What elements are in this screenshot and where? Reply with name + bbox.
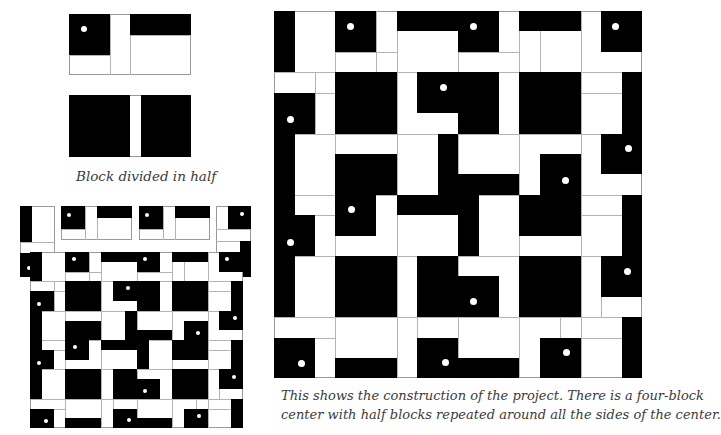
black-patch <box>65 418 101 428</box>
black-patch <box>113 369 137 399</box>
black-patch <box>274 338 315 378</box>
dot-marker <box>563 349 570 356</box>
black-patch <box>540 338 581 378</box>
seam-line <box>20 242 55 243</box>
dot-marker <box>196 331 200 335</box>
black-patch <box>274 256 295 317</box>
seam-line <box>54 281 55 311</box>
seam-line <box>65 272 101 273</box>
black-patch <box>417 256 458 317</box>
black-patch <box>172 340 208 360</box>
dot-marker <box>197 414 201 418</box>
black-patch <box>601 134 642 174</box>
black-patch <box>141 95 191 157</box>
dot-marker <box>143 389 147 393</box>
black-patch <box>137 301 160 311</box>
dot-marker <box>37 302 41 306</box>
black-patch <box>519 72 581 134</box>
black-patch <box>61 206 85 229</box>
black-patch <box>417 338 458 378</box>
seam-line <box>208 252 209 428</box>
black-patch <box>65 340 89 360</box>
black-patch <box>438 134 458 215</box>
black-patch <box>335 195 376 236</box>
black-patch <box>228 206 251 229</box>
black-patch <box>417 72 499 113</box>
black-patch <box>101 340 125 350</box>
black-patch <box>65 321 101 340</box>
black-patch <box>30 291 54 311</box>
construction-caption-line-2: center with half blocks repeated around … <box>281 405 721 424</box>
dot-marker <box>240 212 244 216</box>
black-patch <box>231 399 243 428</box>
black-patch <box>97 206 132 218</box>
black-patch <box>458 11 499 52</box>
dot-marker <box>287 116 294 123</box>
seam-line <box>139 229 163 230</box>
seam-line <box>89 252 90 281</box>
dot-marker <box>67 213 71 217</box>
black-patch <box>184 409 208 428</box>
black-patch <box>458 195 479 256</box>
dot-marker <box>232 375 236 379</box>
dot-marker <box>612 23 619 30</box>
black-patch <box>30 369 42 399</box>
seam-line <box>376 11 377 72</box>
dot-marker <box>287 239 294 246</box>
black-patch <box>458 358 519 378</box>
dot-marker <box>81 26 87 32</box>
black-patch <box>65 252 89 272</box>
black-patch <box>139 206 163 229</box>
black-patch <box>335 11 376 52</box>
dot-marker <box>470 298 477 305</box>
seam-line <box>85 206 86 240</box>
black-patch <box>274 215 315 256</box>
black-patch <box>458 276 499 317</box>
black-patch <box>519 11 581 31</box>
black-patch <box>397 11 458 31</box>
seam-line <box>163 206 164 240</box>
seam-line <box>315 72 316 134</box>
seam-line <box>69 55 110 56</box>
construction-caption-line-1: This shows the construction of the proje… <box>281 386 721 405</box>
seam-line <box>216 229 251 230</box>
dot-marker <box>625 145 632 152</box>
black-patch <box>101 252 137 262</box>
black-patch <box>30 350 54 369</box>
black-patch <box>172 281 208 311</box>
black-patch <box>458 174 519 195</box>
dot-marker <box>225 257 229 261</box>
black-patch <box>519 195 581 236</box>
black-patch <box>20 206 32 242</box>
dot-marker <box>562 177 569 184</box>
black-patch <box>69 95 130 157</box>
dot-marker <box>470 23 477 30</box>
dot-marker <box>143 257 147 261</box>
dot-marker <box>126 286 130 290</box>
black-patch <box>601 256 642 297</box>
dot-marker <box>233 316 237 320</box>
black-patch <box>30 252 42 281</box>
black-patch <box>335 72 397 134</box>
black-patch <box>622 317 642 378</box>
black-patch <box>113 281 160 301</box>
black-patch <box>130 14 191 35</box>
black-patch <box>274 11 295 72</box>
seam-line <box>581 11 582 378</box>
construction-caption: This shows the construction of the proje… <box>281 386 721 424</box>
black-patch <box>274 93 315 134</box>
dot-marker <box>73 345 77 349</box>
black-patch <box>65 281 101 311</box>
black-patch <box>69 14 110 55</box>
black-patch <box>397 195 438 215</box>
black-patch <box>125 311 137 350</box>
dot-marker <box>298 360 305 367</box>
dot-marker <box>72 257 76 261</box>
black-patch <box>335 256 397 317</box>
dot-marker <box>145 213 149 217</box>
black-patch <box>137 252 160 272</box>
black-patch <box>458 113 499 134</box>
seam-line <box>335 52 397 53</box>
black-patch <box>65 369 101 399</box>
dot-marker <box>440 84 447 91</box>
